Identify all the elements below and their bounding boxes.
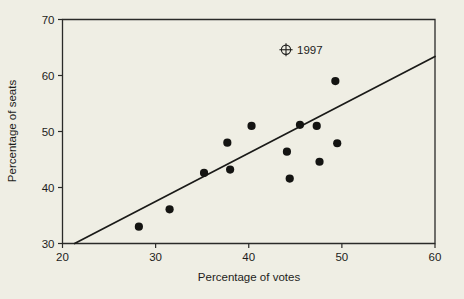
data-point <box>247 122 255 130</box>
annotation-1997: 1997 <box>279 43 322 56</box>
data-point <box>200 169 208 177</box>
data-point <box>333 139 341 147</box>
y-axis-title: Percentage of seats <box>6 80 18 183</box>
y-axis-tick-labels: 3040506070 <box>42 14 55 250</box>
y-tick-label: 60 <box>42 70 55 82</box>
plot-frame <box>63 20 436 244</box>
y-tick-label: 50 <box>42 126 55 138</box>
scatter-plot-figure: 2030405060 3040506070 1997 Percentage of… <box>0 0 464 299</box>
x-axis-tick-labels: 2030405060 <box>56 251 441 263</box>
x-tick-label: 50 <box>335 251 348 263</box>
data-point <box>315 158 323 166</box>
data-point <box>331 77 339 85</box>
x-tick-label: 20 <box>56 251 69 263</box>
x-axis-title: Percentage of votes <box>198 271 301 283</box>
axes-group <box>63 20 436 244</box>
chart-canvas: 2030405060 3040506070 1997 Percentage of… <box>0 0 464 299</box>
x-tick-label: 40 <box>242 251 255 263</box>
data-points-group <box>135 77 342 231</box>
data-point <box>165 205 173 213</box>
x-tick-label: 60 <box>429 251 442 263</box>
y-tick-label: 40 <box>42 182 55 194</box>
data-point <box>286 174 294 182</box>
data-point <box>296 121 304 129</box>
data-point <box>226 165 234 173</box>
data-point <box>223 139 231 147</box>
x-tick-label: 30 <box>149 251 162 263</box>
fit-line-segment <box>75 56 435 243</box>
data-point <box>135 223 143 231</box>
regression-line <box>75 56 435 243</box>
tick-marks-group <box>58 20 435 249</box>
data-point <box>313 122 321 130</box>
annotation-label: 1997 <box>297 44 323 56</box>
data-point <box>283 148 291 156</box>
y-tick-label: 30 <box>42 238 55 250</box>
y-tick-label: 70 <box>42 14 55 26</box>
